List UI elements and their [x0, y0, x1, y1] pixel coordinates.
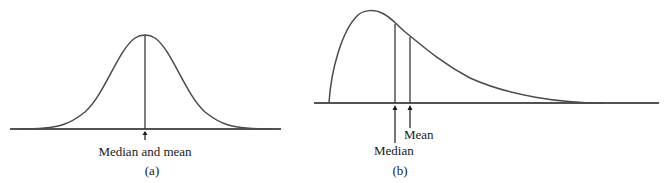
panel-a-bell-curve — [20, 35, 272, 129]
distribution-diagram: Median and mean (a) Mean Median (b) — [0, 0, 665, 183]
panel-b-median-arrowhead-icon — [393, 105, 398, 110]
panel-a-center-label: Median and mean — [98, 144, 192, 159]
panel-b-median-label: Median — [374, 143, 414, 158]
panel-b-mean-label: Mean — [404, 127, 434, 142]
panel-a: Median and mean (a) — [10, 35, 281, 178]
panel-b-mean-arrowhead-icon — [408, 105, 413, 110]
panel-b: Mean Median (b) — [314, 11, 659, 178]
panel-a-arrowhead-icon — [143, 131, 148, 135]
panel-a-caption: (a) — [145, 163, 159, 178]
panel-b-skewed-curve — [329, 11, 603, 103]
panel-b-caption: (b) — [392, 163, 407, 178]
